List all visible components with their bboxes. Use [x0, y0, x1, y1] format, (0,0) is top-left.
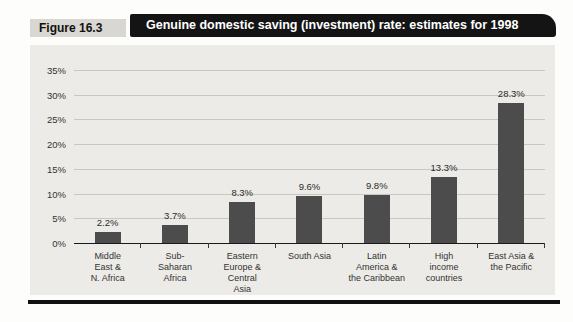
x-axis-category-label: Eastern Europe & Central Asia — [209, 247, 276, 295]
chart-panel: 35% 30% 25% 20% 15% 10% 5% 0% 2.2% — [30, 45, 555, 295]
x-axis-labels: Middle East & N. Africa Sub- Saharan Afr… — [74, 247, 545, 295]
figure-page: Figure 16.3 Genuine domestic saving (inv… — [0, 0, 573, 322]
bottom-rule — [28, 300, 560, 304]
bar-value-label: 2.2% — [97, 217, 119, 228]
bar-sub-saharan — [162, 225, 188, 243]
bar-eastern-europe — [229, 202, 255, 243]
y-axis-tick-label: 10% — [38, 188, 66, 199]
bar-value-label: 9.8% — [366, 180, 388, 191]
bar-value-label: 13.3% — [431, 162, 458, 173]
x-axis-category-label: Sub- Saharan Africa — [141, 247, 208, 295]
x-axis-category-label: South Asia — [276, 247, 343, 295]
y-axis-tick-label: 0% — [38, 238, 66, 249]
bar-group-sub-saharan: 3.7% — [141, 70, 208, 243]
bar-group-south-asia: 9.6% — [276, 70, 343, 243]
bar-middle-east — [95, 232, 121, 243]
bar-group-latin-america: 9.8% — [343, 70, 410, 243]
bar-group-high-income: 13.3% — [410, 70, 477, 243]
bar-high-income — [431, 177, 457, 243]
x-axis-category-label: Middle East & N. Africa — [74, 247, 141, 295]
y-axis-tick-label: 25% — [38, 114, 66, 125]
bar-latin-america — [364, 195, 390, 243]
plot-area: 35% 30% 25% 20% 15% 10% 5% 0% 2.2% — [38, 70, 545, 243]
bar-group-east-asia: 28.3% — [478, 70, 545, 243]
bar-value-label: 28.3% — [498, 88, 525, 99]
figure-number-label: Figure 16.3 — [30, 19, 126, 37]
bar-east-asia — [498, 103, 524, 243]
y-axis-tick-label: 5% — [38, 213, 66, 224]
x-axis-category-label: East Asia & the Pacific — [478, 247, 545, 295]
y-axis-tick-label: 20% — [38, 139, 66, 150]
bar-group-eastern-europe: 8.3% — [209, 70, 276, 243]
x-axis-category-label: High income countries — [410, 247, 477, 295]
y-axis-tick-label: 30% — [38, 89, 66, 100]
y-axis-tick-label: 15% — [38, 163, 66, 174]
x-axis-category-label: Latin America & the Caribbean — [343, 247, 410, 295]
bar-value-label: 8.3% — [231, 187, 253, 198]
bar-value-label: 9.6% — [299, 181, 321, 192]
figure-title-banner: Genuine domestic saving (investment) rat… — [130, 14, 556, 37]
y-axis-tick-label: 35% — [38, 65, 66, 76]
x-axis-line — [74, 243, 545, 244]
bar-value-label: 3.7% — [164, 210, 186, 221]
bar-south-asia — [296, 196, 322, 243]
bars-container: 2.2% 3.7% 8.3% 9.6% — [74, 70, 545, 243]
bar-group-middle-east: 2.2% — [74, 70, 141, 243]
